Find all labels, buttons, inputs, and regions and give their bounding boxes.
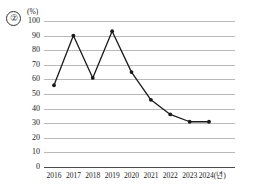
y-axis-tick-label: 40 <box>32 105 40 113</box>
x-axis-tick-label: 2023 <box>182 171 197 180</box>
data-point <box>52 83 56 87</box>
x-axis-tick-label: 2018 <box>85 171 100 180</box>
y-axis-tick-label: 30 <box>32 119 40 127</box>
x-axis-tick-label: 2019 <box>105 171 120 180</box>
series-markers <box>52 29 211 123</box>
y-axis-tick-label: 100 <box>28 17 40 25</box>
y-axis-tick-label: 0 <box>36 163 40 171</box>
y-axis-tick-label: 80 <box>32 46 40 54</box>
y-axis-tick-label: 70 <box>32 61 40 69</box>
y-axis-tick-label: 20 <box>32 134 40 142</box>
y-axis-unit-label: (%) <box>27 8 38 16</box>
x-axis-tick-label: 2016 <box>47 171 62 180</box>
plot-area: 1009080706050403020100 20162017201820192… <box>44 21 235 167</box>
data-point <box>130 70 134 74</box>
chart-figure: ② (%) 1009080706050403020100 20162017201… <box>0 0 261 185</box>
data-point <box>188 120 192 124</box>
x-axis-tick-label: 2017 <box>66 171 81 180</box>
x-axis-tick-label: 2022 <box>163 171 178 180</box>
item-number-badge: ② <box>6 11 21 26</box>
y-axis-tick-label: 60 <box>32 75 40 83</box>
x-axis-tick-label: 2020 <box>124 171 139 180</box>
y-axis-tick-label: 10 <box>32 148 40 156</box>
x-axis-tick-label: 2024(년) <box>199 171 226 180</box>
x-axis-baseline <box>44 167 235 168</box>
data-point <box>91 76 95 80</box>
series-line <box>54 31 209 122</box>
data-point <box>149 98 153 102</box>
data-point <box>110 29 114 33</box>
x-axis-tick-label: 2021 <box>143 171 158 180</box>
line-series <box>44 21 235 167</box>
data-point <box>207 120 211 124</box>
y-axis-tick-label: 50 <box>32 90 40 98</box>
data-point <box>71 34 75 38</box>
data-point <box>168 113 172 117</box>
y-axis-tick-label: 90 <box>32 32 40 40</box>
